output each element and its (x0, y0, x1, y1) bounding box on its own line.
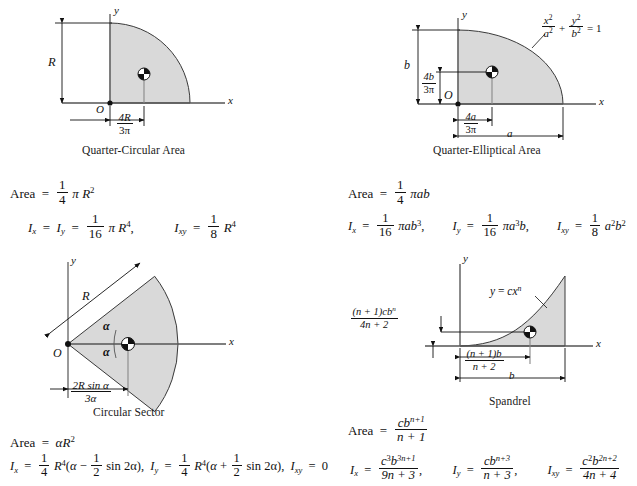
i-frac-den: 16 (87, 226, 104, 241)
caption-quarter-elliptical: Quarter-Elliptical Area (433, 144, 541, 156)
centroid-marker (138, 68, 150, 80)
caption-circular-sector: Circular Sector (93, 406, 164, 418)
dimension-label-b: b (509, 369, 515, 381)
dimension-label-centroid: 2R sin α 3α (69, 380, 112, 405)
circular-sector-figure: y x O R α α 2R sin α 3α (20, 256, 280, 406)
ixy-sub: xy (179, 226, 187, 236)
quarter-circle-shape (110, 23, 190, 103)
dimension-label-a: a (507, 127, 513, 139)
frac-num: 4R (117, 112, 133, 123)
angle-label-upper: α (103, 319, 110, 334)
origin-dot (455, 101, 460, 106)
frac-num: (n + 1)cbn (351, 306, 398, 318)
frac-den: 3π (422, 83, 437, 96)
area-frac-num: 1 (395, 178, 406, 192)
ix-half-num: 1 (91, 452, 101, 465)
centroid-marker (486, 66, 498, 78)
spandrel-figure: y x y = cxn (n + 1)cbn 4n + 2 (n + 1)b n… (385, 254, 635, 394)
origin-dot (65, 341, 71, 347)
ixy-sub: xy (295, 465, 303, 475)
axis-label-y: y (463, 252, 468, 264)
angle-label-lower: α (103, 345, 110, 360)
ix-frac-num: c3b3n+1 (379, 454, 418, 468)
eq-x-num: x2 (542, 14, 555, 26)
formula-moments-quarter-circular: Ix = Iy = 1 16 π R4, Ixy = 1 8 R4 (28, 212, 236, 241)
axis-label-x: x (229, 335, 234, 347)
area-label: Area (10, 435, 35, 450)
dimension-label-4b-3pi: 4b 3π (420, 72, 438, 95)
frac-num: (n + 1)b (465, 349, 504, 360)
origin-dot (107, 100, 112, 105)
axis-label-x: x (228, 94, 233, 106)
eq-a-den: a2 (542, 26, 555, 39)
dimension-label-R: R (48, 55, 56, 70)
iy-sin: sin 2α (246, 459, 277, 473)
iy-sub: y (61, 226, 65, 236)
i-pi-symbol: π (108, 220, 115, 235)
ix-op: − (80, 459, 87, 473)
centroid-marker (524, 326, 536, 338)
ixy-sub: xy (561, 225, 569, 235)
dimension-label-centroid-x: (n + 1)b n + 2 (463, 349, 505, 372)
ix-vars: ab (404, 219, 417, 233)
eq-y-num: y2 (569, 14, 582, 26)
axis-label-x: x (596, 337, 601, 349)
formula-area-circular-sector: Area = αR2 (10, 434, 75, 451)
ix-frac-num: 1 (377, 212, 394, 225)
curve-eq: = (498, 285, 505, 297)
ixy-value: 0 (322, 459, 328, 473)
pi-symbol: π (72, 186, 79, 201)
area-var-exp: 2 (90, 185, 94, 195)
iy-half-den: 2 (232, 465, 242, 480)
i-frac-num: 1 (87, 212, 104, 226)
iy-frac-den: 4 (179, 465, 189, 480)
ix-frac-den: 4 (39, 465, 49, 480)
quarter-circular-figure: y x O R 4R 3π (40, 8, 290, 138)
iy-sub: y (457, 468, 461, 478)
area-frac-den: 4 (57, 192, 68, 207)
frac-num: 2R sin α (71, 380, 111, 391)
ixy-frac-den: 8 (208, 226, 219, 241)
formula-moments-quarter-elliptical: Ix = 1 16 πab3, Iy = 1 16 πa3b, Ixy = 1 … (348, 212, 626, 240)
ix-sub: x (354, 468, 358, 478)
frac-den: 3π (464, 123, 479, 136)
iy-var: R (194, 459, 202, 473)
area-frac-num: 1 (57, 178, 68, 192)
area-var: R (82, 186, 90, 201)
formula-moments-spandrel: Ix = c3b3n+1 9n + 3 , Iy = cbn+3 n + 3 ,… (350, 454, 620, 483)
ix-sin: sin 2α (106, 459, 137, 473)
dimension-label-4a-3pi: 4a 3π (462, 112, 480, 135)
dimension-label-centroid-y: (n + 1)cbn 4n + 2 (349, 306, 399, 330)
section-spandrel: y x y = cxn (n + 1)cbn 4n + 2 (n + 1)b n… (340, 250, 637, 486)
curve-c: cx (507, 285, 517, 297)
iy-half-num: 1 (232, 452, 242, 465)
area-label: Area (10, 186, 35, 201)
axis-label-y: y (71, 254, 76, 266)
formula-area-quarter-circular: Area = 1 4 π R2 (10, 178, 95, 207)
ixy-frac-den: 4n + 4 (580, 468, 619, 483)
curve-exp: n (518, 284, 522, 293)
ellipse-equation: x2 a2 + y2 b2 = 1 (540, 14, 601, 39)
iy-frac-num: 1 (482, 212, 499, 225)
ixy-frac-den: 8 (590, 225, 600, 240)
area-tail: πab (410, 186, 430, 201)
axis-label-y: y (462, 8, 467, 20)
dimension-label-b: b (404, 58, 410, 73)
eq-b-den: b2 (569, 26, 582, 39)
frac-den: n + 2 (465, 360, 504, 373)
frac-den: 3α (71, 391, 111, 404)
ixy-frac-num: 1 (208, 212, 219, 226)
curve-lhs: y (490, 285, 495, 297)
radius-label-R: R (82, 289, 90, 304)
ixy-frac-num: 1 (590, 212, 600, 225)
axis-label-y: y (114, 4, 119, 16)
area-frac-den: 4 (395, 192, 406, 207)
eq-equals: = 1 (587, 22, 601, 34)
ix-half-den: 2 (91, 465, 101, 480)
frac-num: 4a (464, 112, 479, 123)
caption-spandrel: Spandrel (489, 395, 531, 407)
ix-frac-den: 16 (377, 225, 394, 240)
origin-label: O (444, 88, 453, 103)
quarter-circular-svg (40, 8, 290, 138)
quarter-elliptical-figure: y x O b 4b 3π 4a 3π a x2 a2 + y2 b (400, 8, 637, 143)
